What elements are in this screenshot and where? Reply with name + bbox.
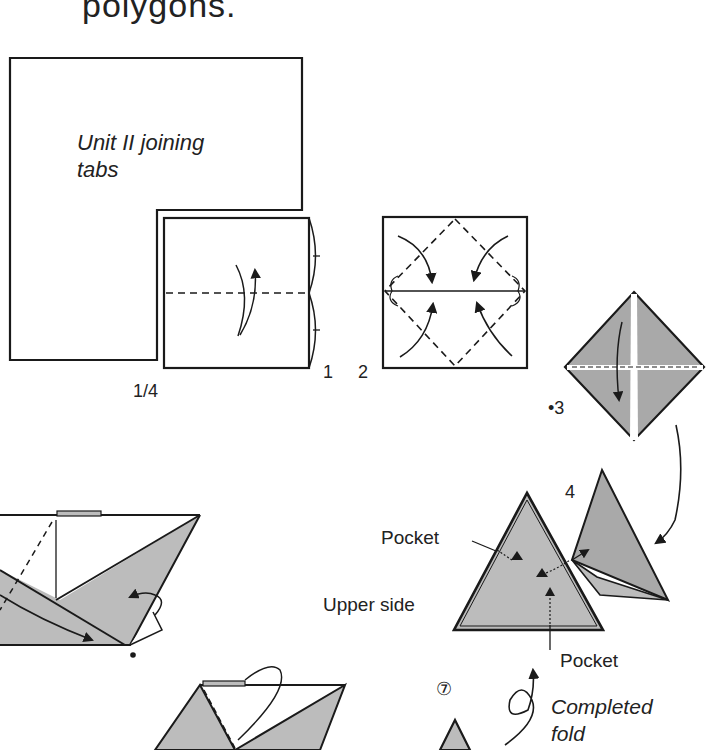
pocket-label-top: Pocket — [381, 527, 439, 549]
step-label-1: 1 — [323, 362, 333, 383]
step-label-2: 2 — [358, 362, 368, 383]
pocket-label-bottom: Pocket — [560, 650, 618, 672]
step-label-7: ⑦ — [436, 678, 452, 700]
step-6-figure — [155, 667, 345, 750]
origami-diagram — [0, 0, 712, 750]
unit-label-line1: Unit II joining — [77, 130, 204, 156]
step-label-quarter: 1/4 — [133, 381, 158, 402]
upper-side-label: Upper side — [323, 594, 415, 616]
completed-fold-line1: Completed — [551, 695, 653, 719]
step-5-figure — [0, 511, 200, 658]
completed-fold-line2: fold — [551, 722, 585, 746]
unit-label-line2: tabs — [77, 157, 119, 183]
step-4-inserting-unit — [572, 470, 668, 600]
step-3-diamond — [565, 292, 704, 543]
step-label-3: •3 — [548, 398, 564, 419]
step-1-square — [164, 218, 320, 368]
completed-fold-figure — [440, 670, 533, 750]
step-label-4: 4 — [565, 482, 575, 503]
step-2-square — [383, 217, 527, 368]
